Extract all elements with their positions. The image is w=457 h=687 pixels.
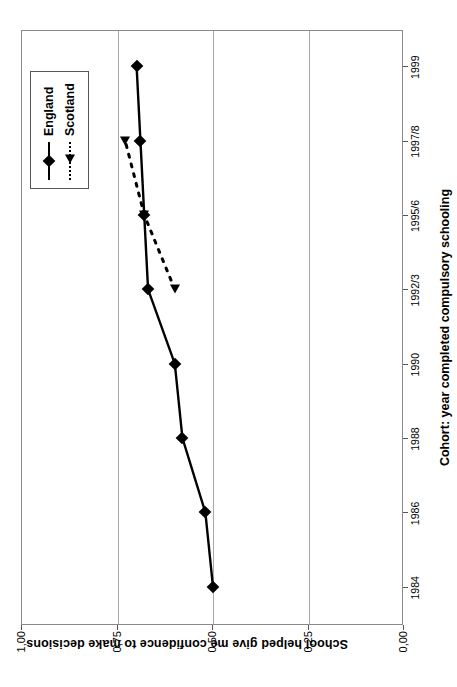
y-axis-title: School helped give me confidence to make… <box>0 637 402 651</box>
x-tick-mark <box>403 587 408 588</box>
x-tick-label: 1995/6 <box>409 181 421 251</box>
data-point-scotland <box>139 210 149 219</box>
chart-legend: England Scotland <box>30 71 89 189</box>
y-tick-mark <box>308 625 309 630</box>
y-tick-label: 0,25 <box>302 631 314 683</box>
legend-item-scotland: Scotland <box>59 80 80 180</box>
x-tick-label: 1999 <box>409 32 421 102</box>
x-tick-label: 1988 <box>409 404 421 474</box>
y-tick-mark <box>117 625 118 630</box>
y-tick-mark <box>403 625 404 630</box>
x-tick-mark <box>403 289 408 290</box>
legend-marker-diamond-icon <box>42 142 56 180</box>
y-tick-mark <box>21 625 22 630</box>
x-tick-mark <box>403 364 408 365</box>
y-tick-label: 1,00 <box>15 631 27 683</box>
y-tick-mark <box>212 625 213 630</box>
legend-label-scotland: Scotland <box>63 83 77 142</box>
legend-item-england: England <box>38 80 59 180</box>
data-point-scotland <box>170 285 180 294</box>
data-point-scotland <box>120 136 130 145</box>
x-tick-mark <box>403 512 408 513</box>
y-tick-label: 0,75 <box>111 631 123 683</box>
x-tick-label: 1997/8 <box>409 107 421 177</box>
line-chart-figure: School helped give me confidence to make… <box>0 0 457 687</box>
x-tick-mark <box>403 438 408 439</box>
legend-label-england: England <box>42 87 56 142</box>
y-tick-label: 0,50 <box>206 631 218 683</box>
y-tick-label: 0,00 <box>397 631 409 683</box>
x-tick-label: 1986 <box>409 478 421 548</box>
x-tick-mark <box>403 141 408 142</box>
x-tick-mark <box>403 66 408 67</box>
x-tick-label: 1990 <box>409 330 421 400</box>
x-tick-mark <box>403 215 408 216</box>
chart-figure-rotator: School helped give me confidence to make… <box>0 0 457 687</box>
x-tick-label: 1984 <box>409 553 421 623</box>
legend-marker-triangle-icon <box>63 142 77 180</box>
x-axis-title: Cohort: year completed compulsory school… <box>438 30 452 625</box>
x-tick-label: 1992/3 <box>409 255 421 325</box>
